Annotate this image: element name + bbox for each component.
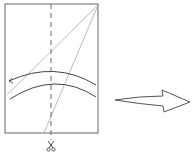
scissors-icon <box>47 141 55 151</box>
folding-diagram <box>0 0 194 153</box>
right-arrow-icon <box>115 90 190 112</box>
